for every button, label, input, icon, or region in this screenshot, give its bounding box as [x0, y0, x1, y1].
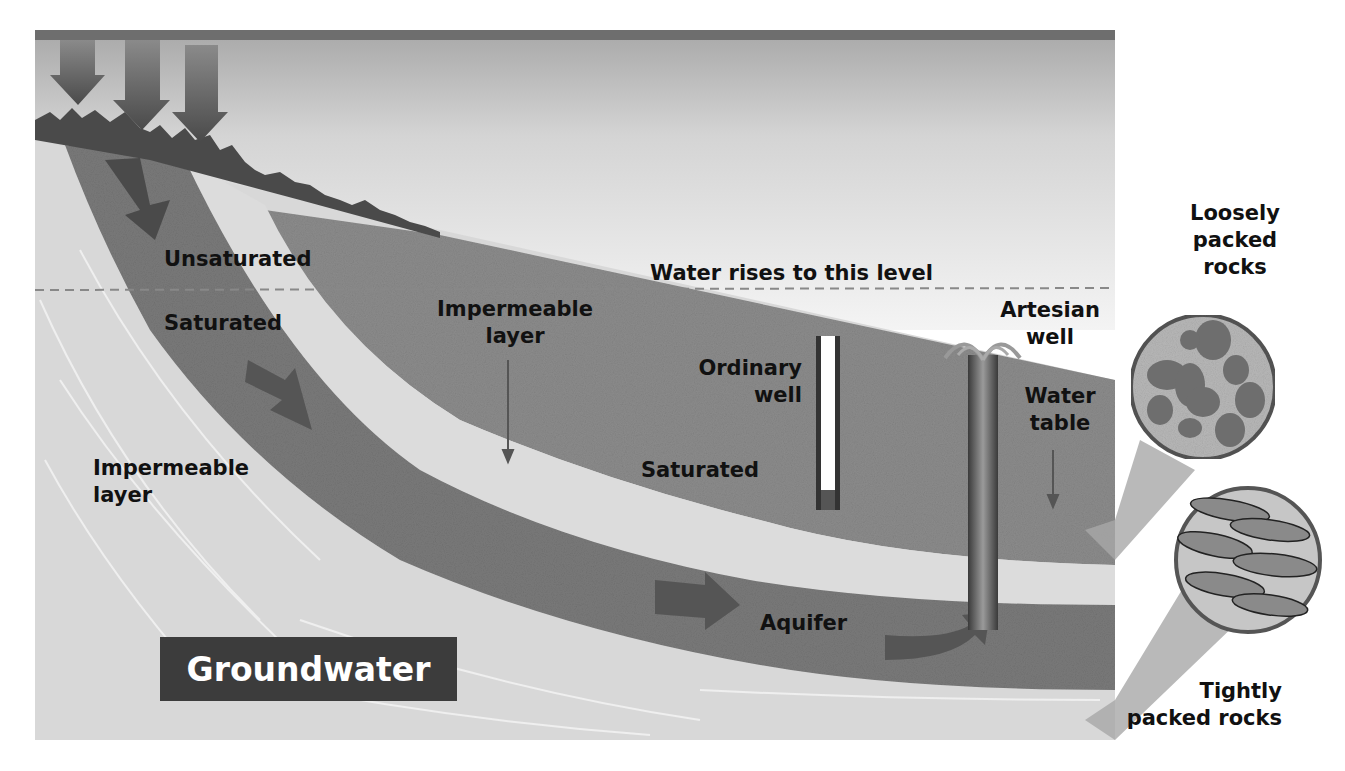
tightly-packed-rocks-circle — [1176, 488, 1320, 632]
label-ordinary-well-line2: well — [640, 382, 802, 409]
label-impermeable-middle-line1: Impermeable — [420, 296, 610, 323]
label-impermeable-middle: Impermeable layer — [420, 296, 610, 350]
top-border — [35, 30, 1115, 40]
label-water-table: Water table — [1010, 383, 1110, 437]
diagram-title-box: Groundwater — [160, 637, 457, 701]
label-saturated-middle: Saturated — [641, 457, 759, 484]
label-tightly-line2: packed rocks — [1100, 705, 1282, 732]
label-impermeable-left: Impermeable layer — [93, 455, 249, 509]
label-ordinary-well: Ordinary well — [640, 355, 802, 409]
label-artesian-well: Artesian well — [990, 297, 1110, 351]
label-water-table-line2: table — [1010, 410, 1110, 437]
label-artesian-well-line2: well — [990, 324, 1110, 351]
label-loosely-line2: packed — [1160, 227, 1310, 254]
label-water-table-line1: Water — [1010, 383, 1110, 410]
label-impermeable-left-line1: Impermeable — [93, 455, 249, 482]
label-water-rises: Water rises to this level — [650, 260, 933, 287]
label-unsaturated: Unsaturated — [164, 246, 312, 273]
ordinary-well — [816, 336, 840, 510]
label-artesian-well-line1: Artesian — [990, 297, 1110, 324]
label-saturated-left: Saturated — [164, 310, 282, 337]
label-loosely-packed-rocks: Loosely packed rocks — [1160, 200, 1310, 281]
label-impermeable-middle-line2: layer — [420, 323, 610, 350]
label-loosely-line3: rocks — [1160, 254, 1310, 281]
label-tightly-packed-rocks: Tightly packed rocks — [1100, 678, 1282, 732]
label-tightly-line1: Tightly — [1100, 678, 1282, 705]
loosely-packed-rocks-circle — [1131, 315, 1275, 459]
label-loosely-line1: Loosely — [1160, 200, 1310, 227]
label-ordinary-well-line1: Ordinary — [640, 355, 802, 382]
diagram-title: Groundwater — [187, 650, 431, 689]
label-aquifer: Aquifer — [760, 610, 847, 637]
label-impermeable-left-line2: layer — [93, 482, 249, 509]
